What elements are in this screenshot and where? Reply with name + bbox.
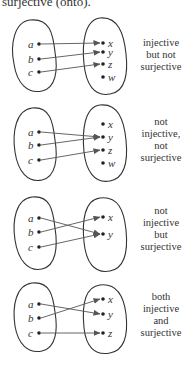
description-line: not bbox=[154, 205, 168, 216]
codomain-label: y bbox=[107, 131, 113, 143]
domain-point bbox=[37, 130, 41, 134]
domain-label: b bbox=[28, 312, 34, 324]
domain-label: b bbox=[28, 226, 34, 238]
mapping-arrow-icon bbox=[41, 304, 100, 314]
codomain-label: z bbox=[107, 144, 113, 156]
codomain-set-outline bbox=[83, 105, 126, 182]
domain-label: c bbox=[28, 327, 33, 339]
description-line: not bbox=[154, 140, 168, 151]
description-line: injective bbox=[143, 217, 179, 228]
codomain-point bbox=[101, 215, 105, 219]
domain-label: b bbox=[28, 53, 34, 65]
codomain-set-outline bbox=[83, 198, 126, 272]
codomain-label: y bbox=[107, 308, 113, 320]
mapping-arrow-icon bbox=[41, 217, 100, 232]
domain-point bbox=[37, 143, 41, 147]
mapping-arrow-icon bbox=[41, 137, 100, 145]
domain-point bbox=[37, 245, 41, 249]
domain-point bbox=[37, 70, 41, 74]
codomain-point bbox=[101, 232, 105, 236]
codomain-label: x bbox=[107, 118, 113, 130]
domain-label: a bbox=[28, 126, 34, 138]
diagram-injective-not-surjective: abcxyzwinjectivebut notsurjective bbox=[13, 18, 182, 95]
codomain-point bbox=[101, 297, 105, 301]
description-line: and bbox=[153, 315, 169, 326]
domain-label: c bbox=[28, 241, 33, 253]
description-line: both bbox=[152, 291, 171, 302]
codomain-point bbox=[101, 50, 105, 54]
codomain-label: w bbox=[108, 71, 116, 83]
domain-label: c bbox=[28, 66, 33, 78]
codomain-point bbox=[101, 331, 105, 335]
function-diagrams: abcxyzwinjectivebut notsurjectiveabcxyzw… bbox=[0, 0, 192, 377]
codomain-label: z bbox=[107, 327, 113, 339]
domain-label: a bbox=[28, 212, 34, 224]
codomain-point bbox=[101, 62, 105, 66]
mapping-arrow-icon bbox=[41, 64, 100, 72]
domain-point bbox=[37, 42, 41, 46]
domain-point bbox=[37, 302, 41, 306]
domain-set-outline bbox=[14, 197, 56, 270]
domain-point bbox=[37, 158, 41, 162]
description-line: surjective bbox=[141, 61, 182, 72]
description-line: surjective bbox=[141, 152, 182, 163]
codomain-point bbox=[101, 148, 105, 152]
codomain-point bbox=[101, 135, 105, 139]
mapping-arrow-icon bbox=[41, 234, 100, 247]
codomain-point bbox=[101, 41, 105, 45]
mapping-arrow-icon bbox=[41, 43, 100, 44]
codomain-label: x bbox=[107, 211, 113, 223]
domain-label: c bbox=[28, 154, 33, 166]
domain-set-outline bbox=[13, 20, 57, 92]
description-line: injective bbox=[143, 303, 179, 314]
domain-point bbox=[37, 316, 41, 320]
mapping-arrow-icon bbox=[41, 218, 100, 234]
description-line: but not bbox=[146, 49, 176, 60]
codomain-label: y bbox=[107, 228, 113, 240]
description-line: injective, bbox=[142, 128, 181, 139]
domain-label: b bbox=[28, 139, 34, 151]
domain-label: a bbox=[28, 298, 34, 310]
codomain-point bbox=[101, 161, 105, 165]
domain-point bbox=[37, 57, 41, 61]
codomain-set-outline bbox=[83, 285, 126, 354]
description-line: surjective bbox=[141, 241, 182, 252]
domain-label: a bbox=[28, 38, 34, 50]
domain-point bbox=[37, 216, 41, 220]
mapping-arrow-icon bbox=[41, 132, 100, 137]
mapping-arrow-icon bbox=[41, 299, 100, 318]
codomain-label: w bbox=[108, 157, 116, 169]
codomain-point bbox=[101, 75, 105, 79]
diagram-not-injective-not-surjective: abcxyzwnotinjective,notsurjective bbox=[14, 105, 182, 182]
codomain-set-outline bbox=[83, 18, 126, 95]
description-line: surjective bbox=[141, 327, 182, 338]
codomain-label: x bbox=[107, 293, 113, 305]
codomain-point bbox=[101, 312, 105, 316]
mapping-arrow-icon bbox=[41, 150, 100, 160]
description-line: not bbox=[154, 116, 168, 127]
codomain-label: z bbox=[107, 58, 113, 70]
mapping-arrow-icon bbox=[41, 52, 100, 59]
codomain-point bbox=[101, 122, 105, 126]
description-line: but bbox=[154, 229, 168, 240]
domain-point bbox=[37, 331, 41, 335]
domain-set-outline bbox=[14, 283, 56, 352]
domain-point bbox=[37, 230, 41, 234]
diagram-injective-and-surjective: abcxyzbothinjectiveandsurjective bbox=[14, 283, 182, 354]
codomain-label: y bbox=[107, 46, 113, 58]
diagram-not-injective-surjective: abcxynotinjectivebutsurjective bbox=[14, 197, 182, 272]
description-line: injective bbox=[143, 37, 179, 48]
